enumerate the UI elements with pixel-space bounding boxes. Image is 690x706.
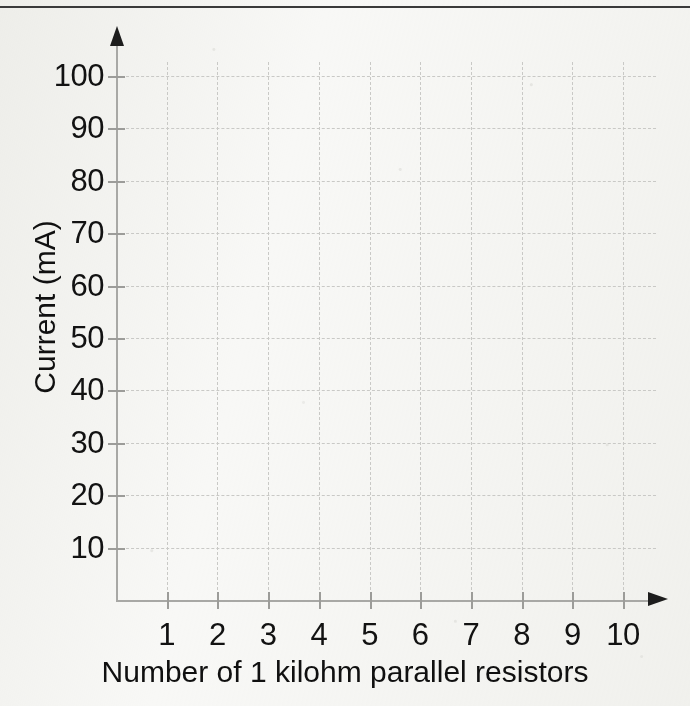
x-axis-tick: [217, 592, 219, 609]
y-axis-tick: [108, 181, 125, 183]
gridline-vertical: [522, 62, 523, 600]
y-axis-title: Current (mA): [30, 177, 60, 437]
gridline-vertical: [572, 62, 573, 600]
gridline-vertical: [268, 62, 269, 600]
y-axis-tick: [108, 548, 125, 550]
gridline-vertical: [217, 62, 218, 600]
gridline-horizontal: [116, 76, 656, 77]
gridline-vertical: [471, 62, 472, 600]
x-axis-tick: [370, 592, 372, 609]
x-axis-tick: [522, 592, 524, 609]
y-axis-line: [116, 40, 118, 601]
y-axis-tick: [108, 338, 125, 340]
gridline-horizontal: [116, 128, 656, 129]
gridline-vertical: [319, 62, 320, 600]
x-axis-tick: [572, 592, 574, 609]
y-axis-tick-label: 100: [4, 60, 104, 91]
gridline-vertical: [167, 62, 168, 600]
gridline-horizontal: [116, 390, 656, 391]
y-axis-tick: [108, 443, 125, 445]
arrow-right-icon: [648, 592, 668, 606]
y-axis-tick: [108, 390, 125, 392]
gridline-vertical: [420, 62, 421, 600]
x-axis-tick: [167, 592, 169, 609]
gridline-horizontal: [116, 548, 656, 549]
gridline-horizontal: [116, 286, 656, 287]
x-axis-tick: [268, 592, 270, 609]
arrow-up-icon: [110, 26, 124, 46]
y-axis-tick: [108, 233, 125, 235]
y-axis-tick-label: 20: [4, 479, 104, 510]
x-axis-tick: [471, 592, 473, 609]
y-axis-tick: [108, 286, 125, 288]
y-axis-tick-label: 90: [4, 112, 104, 143]
top-horizontal-rule: [0, 6, 690, 8]
gridline-vertical: [370, 62, 371, 600]
gridline-horizontal: [116, 338, 656, 339]
x-axis-tick: [420, 592, 422, 609]
x-axis-title: Number of 1 kilohm parallel resistors: [0, 655, 690, 689]
y-axis-tick: [108, 128, 125, 130]
gridline-horizontal: [116, 495, 656, 496]
gridline-horizontal: [116, 233, 656, 234]
x-axis-tick: [623, 592, 625, 609]
gridline-horizontal: [116, 443, 656, 444]
gridline-horizontal: [116, 181, 656, 182]
y-axis-tick-label: 10: [4, 532, 104, 563]
graph-page: 102030405060708090100 12345678910 Curren…: [0, 0, 690, 706]
x-axis-tick: [319, 592, 321, 609]
y-axis-tick: [108, 76, 125, 78]
y-axis-tick: [108, 495, 125, 497]
x-axis-tick-label: 10: [593, 618, 653, 652]
gridline-vertical: [623, 62, 624, 600]
